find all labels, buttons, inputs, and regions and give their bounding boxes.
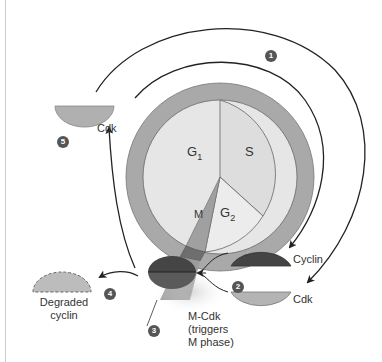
step-2-marker: 2	[232, 281, 244, 293]
cyclin-label: Cyclin	[293, 253, 323, 265]
arrow-4	[100, 272, 138, 277]
degraded-cyclin-shape	[33, 272, 91, 292]
degraded-label-line1: Degraded	[36, 296, 92, 308]
cdk-bottom-label: Cdk	[293, 293, 313, 305]
mcdk-label-line1: M-Cdk	[188, 310, 220, 322]
cdk-bottom-shape	[231, 292, 291, 306]
phase-m-label: M	[194, 208, 203, 220]
phase-g1-label: G1	[187, 144, 202, 162]
step-3-marker: 3	[148, 325, 160, 337]
phase-s-label: S	[245, 144, 254, 159]
mcdk-label-line2: (triggers	[188, 323, 228, 335]
phase-g2-label: G2	[220, 205, 235, 223]
degraded-label-line2: cyclin	[36, 309, 92, 321]
step-1-marker: 1	[265, 50, 277, 62]
step-4-marker: 4	[104, 288, 116, 300]
mcdk-label-line3: M phase)	[188, 336, 234, 348]
mcdk-complex	[148, 256, 196, 289]
cdk-top-label: Cdk	[97, 122, 117, 134]
mcdk-pointer-line	[147, 300, 157, 326]
arrow-to-degraded	[103, 128, 132, 277]
step-5-marker: 5	[57, 136, 69, 148]
